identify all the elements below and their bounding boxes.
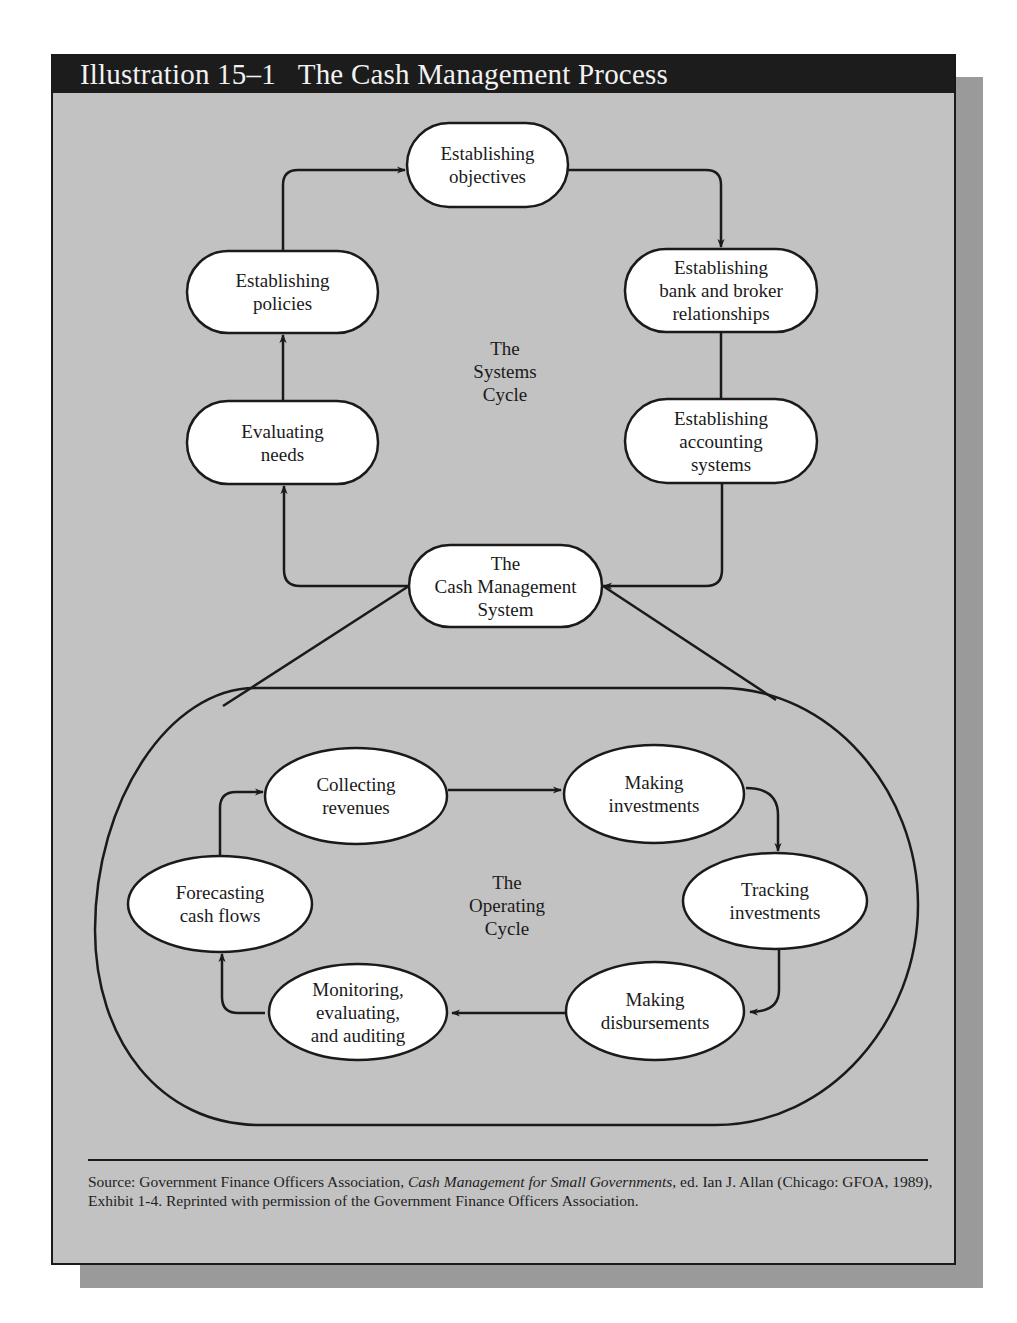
source-prefix: Source: Government Finance Officers Asso… (88, 1173, 408, 1190)
label-line: and auditing (311, 1024, 405, 1047)
label-cash-management-system: The Cash Management System (409, 545, 602, 627)
diagonal-right (600, 584, 776, 700)
label-line: Cycle (447, 917, 567, 940)
label-making-disbursements: Making disbursements (566, 962, 744, 1060)
label-line: The (445, 337, 565, 360)
label-line: Systems (445, 360, 565, 383)
label-establishing-accounting-systems: Establishing accounting systems (625, 399, 817, 483)
label-line: policies (253, 292, 312, 315)
label-line: Operating (447, 894, 567, 917)
systems-cycle-label: The Systems Cycle (445, 337, 565, 406)
label-line: The (491, 552, 521, 575)
connector-forecasting-to-collecting (220, 792, 263, 857)
label-line: accounting (679, 430, 762, 453)
connector-center-to-needs (284, 486, 409, 586)
label-line: Cycle (445, 383, 565, 406)
label-line: Making (624, 771, 683, 794)
label-line: Cash Management (435, 575, 577, 598)
label-collecting-revenues: Collecting revenues (265, 748, 447, 844)
label-line: Making (625, 988, 684, 1011)
label-line: systems (691, 453, 751, 476)
source-citation: Source: Government Finance Officers Asso… (88, 1172, 933, 1210)
label-line: disbursements (601, 1011, 710, 1034)
connector-monitoring-to-forecasting (222, 954, 265, 1013)
label-establishing-bank-relationships: Establishing bank and broker relationshi… (625, 249, 817, 332)
label-establishing-policies: Establishing policies (187, 251, 378, 333)
label-line: Collecting (316, 773, 395, 796)
label-line: Establishing (236, 269, 330, 292)
label-line: needs (261, 443, 304, 466)
label-tracking-investments: Tracking investments (683, 853, 867, 949)
connector-objectives-to-bank (568, 170, 721, 247)
label-line: evaluating, (316, 1001, 400, 1024)
label-line: Monitoring, (312, 978, 403, 1001)
label-line: Establishing (441, 142, 535, 165)
label-line: Evaluating (241, 420, 323, 443)
label-line: Establishing (674, 407, 768, 430)
label-line: System (478, 598, 534, 621)
label-evaluating-needs: Evaluating needs (187, 401, 378, 484)
label-line: relationships (672, 302, 769, 325)
label-line: Tracking (741, 878, 809, 901)
label-forecasting-cash-flows: Forecasting cash flows (128, 856, 312, 952)
label-establishing-objectives: Establishing objectives (407, 123, 568, 207)
label-line: investments (609, 794, 700, 817)
label-making-investments: Making investments (564, 745, 744, 843)
source-divider (88, 1159, 928, 1161)
label-line: Establishing (674, 256, 768, 279)
label-line: The (447, 871, 567, 894)
label-monitoring-evaluating-auditing: Monitoring, evaluating, and auditing (269, 964, 447, 1060)
connector-tracking-to-disbursements (750, 950, 779, 1012)
label-line: revenues (322, 796, 390, 819)
source-book-title: Cash Management for Small Governments (408, 1173, 672, 1190)
label-line: objectives (449, 165, 526, 188)
label-line: bank and broker (659, 279, 782, 302)
connector-policies-to-objectives (283, 170, 405, 251)
connector-investments-to-tracking (746, 788, 778, 851)
operating-cycle-label: The Operating Cycle (447, 871, 567, 940)
label-line: investments (730, 901, 821, 924)
connector-accounting-to-center (604, 483, 722, 586)
label-line: cash flows (180, 904, 261, 927)
label-line: Forecasting (176, 881, 265, 904)
